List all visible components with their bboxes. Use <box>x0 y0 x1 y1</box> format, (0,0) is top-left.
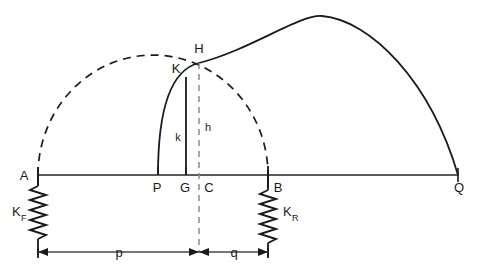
label-point-P: P <box>153 180 162 195</box>
label-spring-front-sub: F <box>21 213 27 223</box>
label-spring-rear: K R <box>283 204 299 223</box>
label-point-K: K <box>172 61 181 76</box>
label-spring-rear-sub: R <box>292 213 299 223</box>
label-point-G: G <box>180 180 190 195</box>
label-point-H: H <box>194 41 203 56</box>
label-point-C: C <box>204 180 213 195</box>
label-spring-rear-main: K <box>283 204 292 219</box>
label-point-A: A <box>20 168 29 183</box>
label-dimension-h: h <box>205 121 211 133</box>
label-spring-front-main: K <box>12 204 21 219</box>
diagram-canvas: A P G C B Q K H k h p q K F K R <box>0 0 480 279</box>
label-point-Q: Q <box>454 180 464 195</box>
label-dimension-k: k <box>175 131 181 143</box>
spring-front-KF <box>30 175 46 255</box>
label-dimension-p: p <box>115 245 122 260</box>
label-spring-front: K F <box>12 204 27 223</box>
label-dimension-q: q <box>230 245 237 260</box>
mechanics-geometry-diagram: A P G C B Q K H k h p q K F K R <box>0 0 480 279</box>
dashed-semicircle-AB <box>38 55 268 175</box>
large-solid-arc-PQ <box>158 16 458 175</box>
label-point-B: B <box>274 180 283 195</box>
